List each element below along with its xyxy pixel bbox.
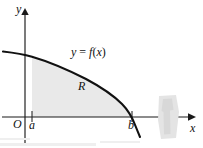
function-label-close-paren: )	[102, 45, 106, 59]
y-axis-label: y	[16, 3, 21, 15]
function-label-equals: =	[76, 45, 89, 59]
origin-label: O	[13, 118, 22, 130]
page-scan-noise	[0, 138, 140, 146]
x-axis-arrow-icon	[188, 113, 196, 121]
function-label: y = f(x)	[71, 46, 106, 58]
figure-region-under-curve: y x O a b R y = f(x)	[0, 0, 203, 148]
lower-limit-label: a	[29, 119, 35, 131]
scan-artifact-smudge	[158, 95, 179, 139]
region-label: R	[78, 80, 85, 92]
y-axis-arrow-icon	[21, 8, 28, 15]
upper-limit-label: b	[128, 119, 134, 131]
x-axis-label: x	[190, 122, 195, 134]
